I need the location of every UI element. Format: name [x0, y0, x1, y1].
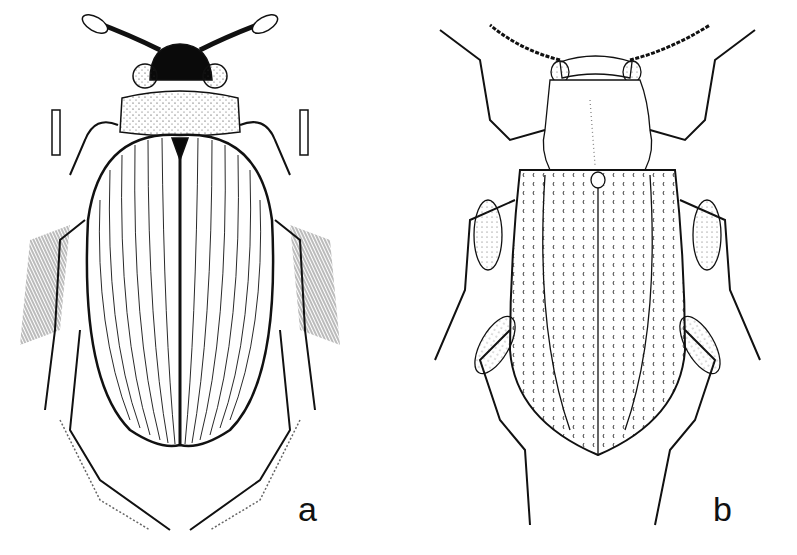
panel-label-b: b: [713, 492, 732, 526]
figure-panel-a: a: [0, 0, 400, 555]
figure-panel-b: b: [400, 0, 797, 555]
beetle-a-illustration: [0, 0, 400, 555]
beetle-b-illustration: [400, 0, 797, 555]
panel-label-a: a: [298, 492, 317, 526]
